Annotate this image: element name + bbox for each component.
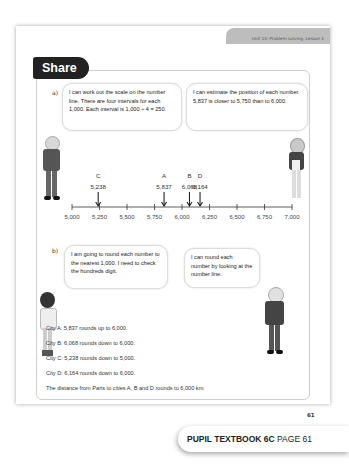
tick-label: 6,750 [257, 214, 273, 220]
tick-label: 5,250 [92, 214, 108, 220]
marker-value: 5,238 [90, 183, 106, 190]
speech-bubble-text: I can round each number by looking at th… [191, 254, 252, 277]
tick-label: 6,250 [202, 214, 218, 220]
speech-bubble-text: I am going to round each number to the n… [71, 251, 160, 274]
marker-value: 5,837 [156, 183, 172, 190]
tick-label: 6,000 [174, 214, 190, 220]
marker-value: 6,164 [192, 183, 208, 190]
speech-bubble-number-line: I can round each number by looking at th… [184, 248, 260, 288]
tick-label: 6,500 [229, 214, 245, 220]
part-b-label: b) [52, 247, 58, 254]
footer-page: PAGE 61 [277, 434, 312, 444]
tick-label: 5,500 [119, 214, 135, 220]
tick-label: 5,750 [147, 214, 163, 220]
rounding-line-city-d: City D: 6,164 rounds down to 6,000. [46, 370, 135, 376]
marker-letter: C [96, 172, 101, 179]
footer-page-reference: PUPIL TEXTBOOK 6C PAGE 61 [178, 426, 349, 452]
page-number: 61 [307, 412, 315, 418]
tick-label: 5,000 [64, 214, 80, 220]
number-line-markers: 5,238C5,837A6,068B6,164D [90, 172, 208, 206]
rounding-line-city-c: City C: 5,238 rounds down to 5,000. [46, 355, 135, 361]
number-line-chart: 5,0005,2505,5005,7506,0006,2506,5006,750… [0, 0, 349, 470]
tick-label: 7,000 [284, 214, 300, 220]
marker-letter: A [162, 172, 167, 179]
rounding-line-city-a: City A: 5,837 rounds up to 6,000. [46, 325, 127, 331]
marker-letter: D [198, 172, 203, 179]
marker-letter: B [187, 172, 191, 179]
footer-book-title: PUPIL TEXTBOOK 6C [187, 434, 275, 444]
rounding-conclusion: The distance from Paris to cities A, B a… [46, 385, 205, 391]
speech-bubble-rounding: I am going to round each number to the n… [64, 245, 168, 289]
boy-character-illustration [264, 287, 286, 359]
number-line-ticks: 5,0005,2505,5005,7506,0006,2506,5006,750… [64, 204, 300, 220]
rounding-line-city-b: City B: 6,068 rounds down to 6,000. [46, 340, 135, 346]
